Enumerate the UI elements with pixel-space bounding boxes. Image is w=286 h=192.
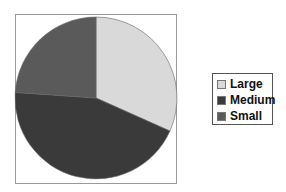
legend-label-large: Large: [230, 77, 263, 91]
legend-swatch-small: [217, 112, 226, 121]
legend-item-large: Large: [217, 77, 263, 91]
legend: Large Medium Small: [212, 73, 273, 125]
legend-item-medium: Medium: [217, 93, 275, 107]
legend-item-small: Small: [217, 109, 262, 123]
pie-slice-small: [15, 17, 96, 98]
legend-label-small: Small: [230, 109, 262, 123]
legend-swatch-medium: [217, 96, 226, 105]
legend-swatch-large: [217, 80, 226, 89]
legend-label-medium: Medium: [230, 93, 275, 107]
